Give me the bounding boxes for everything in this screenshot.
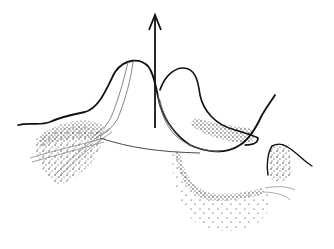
right-lobe-stipple — [190, 118, 254, 143]
bottom-cavity-stipple — [172, 150, 270, 231]
illustration-canvas — [0, 0, 334, 249]
left-stipple-region — [35, 121, 105, 185]
right-step-stipple — [268, 143, 292, 181]
diagram-svg — [0, 0, 334, 249]
